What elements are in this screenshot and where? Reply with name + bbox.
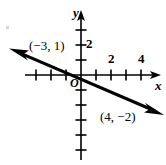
corner-artifact-speck [6, 26, 9, 29]
origin-label: O [70, 77, 79, 89]
point-label-b: (4, −2) [100, 110, 136, 123]
coordinate-plane-svg [0, 0, 166, 165]
x-tick-label-4: 4 [138, 52, 145, 65]
x-tick-label-2: 2 [108, 52, 115, 65]
y-tick-label-2: 2 [86, 37, 93, 50]
plotted-line [19, 53, 155, 111]
x-axis-label: x [155, 79, 162, 92]
y-axis-label: y [73, 6, 79, 19]
point-label-a: (−3, 1) [29, 39, 65, 52]
graph-figure: y x O 2 4 2 (−3, 1) (4, −2) [0, 0, 166, 165]
